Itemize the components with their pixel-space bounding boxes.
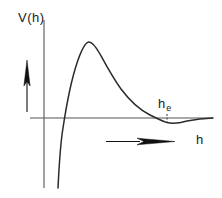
x-axis-label: h [196,132,204,147]
equilibrium-label-subscript: e [166,103,172,113]
potential-curve [58,42,213,188]
horizontal-direction-arrow [106,138,175,145]
plot-canvas [0,0,222,198]
potential-energy-figure: V(h) h he [0,0,222,198]
y-axis-label: V(h) [18,10,45,25]
vertical-direction-arrow [24,60,30,112]
equilibrium-distance-label: he [158,96,172,113]
equilibrium-label-base: h [158,96,166,111]
